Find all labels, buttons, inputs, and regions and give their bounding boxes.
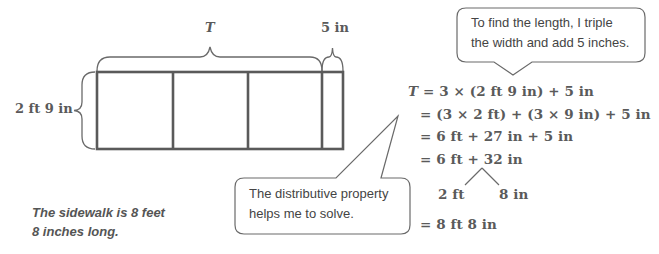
callout-bottom-line2: helps me to solve. [249,204,388,224]
answer-statement: The sidewalk is 8 feet 8 inches long. [32,203,165,241]
answer-line2: 8 inches long. [32,222,165,241]
brace-extra-icon [322,48,343,71]
width-label: 2 ft 9 in [15,101,73,116]
extra-label: 5 in [321,20,349,35]
equation-line-4: = 6 ft + 32 in [420,151,523,167]
equation-variable: T [408,83,418,99]
split-right: 8 in [499,186,528,202]
callout-bottom-text: The distributive property helps me to so… [249,184,388,224]
tape-diagram-figure: T 5 in 2 ft 9 in To find the length, I t… [0,0,659,254]
callout-top-line2: the width and add 5 inches. [471,33,629,53]
answer-line1: The sidewalk is 8 feet [32,203,165,222]
equation-line-2: = (3 × 2 ft) + (3 × 9 in) + 5 in [420,106,651,122]
split-left: 2 ft [438,186,465,202]
brace-width-icon [74,72,95,149]
equation-line-5: = 8 ft 8 in [420,216,497,232]
equation-line-3: = 6 ft + 27 in + 5 in [420,128,573,144]
total-label: T [205,20,215,35]
decompose-lines [465,168,499,185]
equation-line-1: T = 3 × (2 ft 9 in) + 5 in [408,83,594,99]
callout-top-line1: To find the length, I triple [471,13,629,33]
callout-top-text: To find the length, I triple the width a… [471,13,629,53]
brace-total-icon [97,47,322,71]
equation-line-1-rest: = 3 × (2 ft 9 in) + 5 in [418,83,594,99]
callout-bottom-line1: The distributive property [249,184,388,204]
tape-rectangle [97,72,343,149]
